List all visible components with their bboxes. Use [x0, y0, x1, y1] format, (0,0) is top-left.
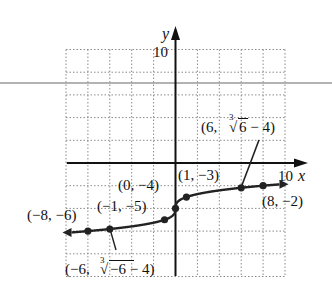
data-point — [84, 228, 91, 235]
label-point-6: (6, √ 3 6 − 4) — [201, 112, 275, 136]
y-tick-10: 10 — [153, 44, 168, 60]
label-point-1: (1, −3) — [178, 167, 219, 184]
y-axis-arrow-icon — [171, 26, 180, 40]
root-index: 3 — [100, 255, 105, 265]
label-point-neg1: (−1, −5) — [97, 198, 146, 215]
axes — [67, 26, 308, 276]
label-point-neg6-suffix: −6 − 4) — [110, 261, 154, 278]
data-point — [183, 193, 190, 200]
data-point — [106, 225, 113, 232]
label-point-8: (8, −2) — [262, 193, 303, 210]
x-axis-label: x — [297, 167, 305, 184]
label-point-6-suffix: 6 − 4) — [239, 119, 275, 136]
label-point-neg6-prefix: (−6, — [65, 261, 90, 278]
cube-root-graph: y 10 10 x (−8, −6) (−1, −5) (0, −4) (1, … — [0, 0, 332, 295]
label-point-6-prefix: (6, — [201, 119, 217, 136]
root-index: 3 — [229, 112, 234, 122]
label-point-neg8: (−8, −6) — [27, 207, 76, 224]
label-point-0: (0, −4) — [118, 177, 159, 194]
label-point-neg6: (−6, √ 3 −6 − 4) — [65, 255, 154, 278]
data-point — [238, 184, 245, 191]
data-point — [161, 216, 168, 223]
data-point — [260, 182, 267, 189]
data-point — [172, 205, 179, 212]
curve-left-arrow-icon — [62, 228, 71, 237]
y-axis-label: y — [160, 25, 170, 43]
